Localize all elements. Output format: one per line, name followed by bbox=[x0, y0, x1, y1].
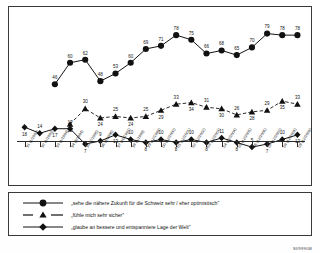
legend-label-secure: „fühle mich sehr sicher" bbox=[67, 212, 124, 218]
data-point bbox=[219, 47, 225, 53]
data-point bbox=[128, 60, 134, 66]
data-label: 25 bbox=[113, 107, 119, 112]
data-point bbox=[279, 98, 286, 104]
source-code: SI/999/08 bbox=[293, 246, 312, 251]
data-label: 75 bbox=[189, 31, 195, 36]
legend-label-world: „glaube an bessere und entspanntere Lage… bbox=[67, 224, 191, 230]
data-point bbox=[82, 57, 88, 63]
data-label: 78 bbox=[295, 26, 301, 31]
data-point bbox=[97, 78, 103, 84]
data-point bbox=[158, 43, 164, 49]
data-point bbox=[112, 70, 118, 76]
data-label: 78 bbox=[280, 26, 286, 31]
data-point bbox=[143, 113, 150, 119]
data-label: 78 bbox=[174, 26, 180, 31]
data-point bbox=[279, 32, 285, 38]
legend-item-optimistic: „sehe die nähere Zukunft für die Schweiz… bbox=[15, 197, 305, 209]
data-label: 79 bbox=[265, 24, 271, 29]
data-label: 60 bbox=[128, 54, 134, 59]
triangle-marker-icon bbox=[15, 209, 67, 221]
data-label: 65 bbox=[234, 46, 240, 51]
data-point bbox=[173, 32, 179, 38]
data-point bbox=[188, 99, 195, 105]
diamond-marker-icon bbox=[15, 221, 67, 233]
data-label: 46 bbox=[52, 75, 58, 80]
data-label: 62 bbox=[83, 51, 89, 56]
plot-frame: 4660624853606971787566686570797878203024… bbox=[8, 6, 312, 186]
data-label: 29 bbox=[265, 101, 271, 106]
data-label: 66 bbox=[204, 44, 210, 49]
data-label: 71 bbox=[158, 37, 164, 42]
legend-label-optimistic: „sehe die nähere Zukunft für die Schweiz… bbox=[67, 200, 219, 206]
data-label: 28 bbox=[249, 116, 255, 121]
data-point bbox=[67, 60, 73, 66]
data-label: 70 bbox=[249, 38, 255, 43]
plot-area: 4660624853606971787566686570797878203024… bbox=[17, 11, 305, 141]
data-label: 9 bbox=[99, 132, 102, 137]
data-label: 69 bbox=[143, 40, 149, 45]
data-label: 30 bbox=[83, 99, 89, 104]
data-point bbox=[188, 37, 194, 43]
data-point bbox=[143, 46, 149, 52]
data-point bbox=[203, 50, 209, 56]
series-line bbox=[70, 101, 297, 124]
data-point bbox=[249, 44, 255, 50]
data-label: 25 bbox=[143, 107, 149, 112]
data-label: 24 bbox=[98, 122, 104, 127]
legend-item-world: „glaube an bessere und entspanntere Lage… bbox=[15, 221, 305, 233]
data-label: 30 bbox=[219, 113, 225, 118]
data-label: 48 bbox=[98, 72, 104, 77]
chart-page: 4660624853606971787566686570797878203024… bbox=[0, 0, 320, 253]
data-label: 24 bbox=[128, 122, 134, 127]
data-point bbox=[52, 81, 58, 87]
legend: „sehe die nähere Zukunft für die Schweiz… bbox=[8, 192, 312, 236]
data-label: 53 bbox=[113, 64, 119, 69]
data-label: 34 bbox=[189, 107, 195, 112]
data-label: 17 bbox=[68, 120, 74, 125]
legend-item-secure: „fühle mich sehr sicher" bbox=[15, 209, 305, 221]
data-label: 29 bbox=[158, 115, 164, 120]
data-point bbox=[82, 106, 89, 112]
circle-marker-icon bbox=[15, 197, 67, 209]
data-label: 31 bbox=[204, 98, 210, 103]
data-point bbox=[294, 101, 301, 107]
data-point bbox=[22, 124, 28, 130]
data-label: 35 bbox=[280, 105, 286, 110]
data-point bbox=[294, 32, 300, 38]
data-point bbox=[112, 113, 119, 119]
series-line bbox=[55, 34, 298, 85]
data-label: 26 bbox=[234, 106, 240, 111]
series-plot: 4660624853606971787566686570797878203024… bbox=[17, 11, 305, 141]
data-point bbox=[127, 115, 134, 121]
data-point bbox=[234, 52, 240, 58]
data-label: 33 bbox=[295, 95, 301, 100]
data-label: 18 bbox=[22, 132, 28, 137]
data-point bbox=[264, 107, 271, 113]
data-point bbox=[203, 104, 210, 110]
data-label: 60 bbox=[68, 54, 74, 59]
data-label: 68 bbox=[219, 41, 225, 46]
data-label: 33 bbox=[174, 95, 180, 100]
data-point bbox=[264, 31, 270, 37]
data-point bbox=[158, 107, 165, 113]
data-label: 14 bbox=[37, 124, 43, 129]
x-axis-labels: '91 (1/1992)'92 (1/1993)'93 (1/1994)'94 … bbox=[17, 145, 305, 185]
